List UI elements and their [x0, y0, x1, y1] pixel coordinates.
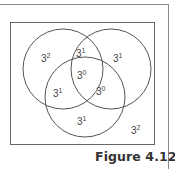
circle-top-left [23, 29, 103, 109]
region-label: 30 [96, 85, 106, 97]
region-labels: 3231313031303132 [41, 47, 141, 136]
region-label: 31 [53, 87, 63, 99]
region-label: 31 [77, 115, 87, 127]
region-label: 32 [131, 124, 141, 136]
venn-diagram: 3231313031303132 [0, 0, 175, 169]
venn-circles [23, 29, 151, 137]
region-label: 31 [113, 52, 123, 64]
figure-caption: Figure 4.12 [95, 149, 175, 164]
region-label: 30 [77, 69, 87, 81]
region-label: 32 [41, 52, 51, 64]
